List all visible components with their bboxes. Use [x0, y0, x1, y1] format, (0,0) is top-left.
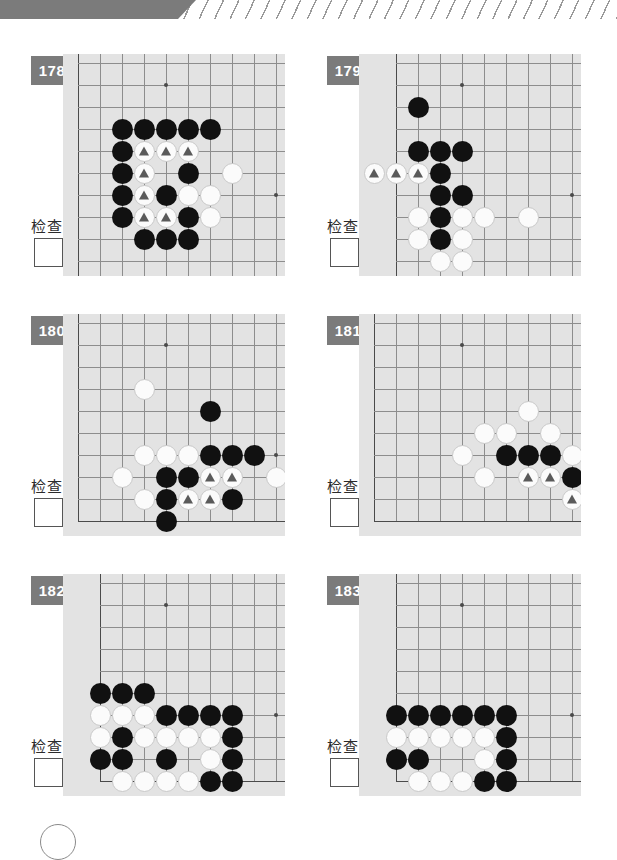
white-stone	[178, 489, 199, 510]
board-star-point	[460, 603, 464, 607]
check-label: 检查	[327, 215, 359, 236]
check-checkbox[interactable]	[330, 498, 359, 527]
black-stone	[430, 229, 451, 250]
white-stone	[408, 207, 429, 228]
board-star-point	[164, 343, 168, 347]
black-stone	[156, 705, 177, 726]
board-line-vertical	[506, 54, 507, 276]
board-line-horizontal	[396, 261, 581, 262]
board-line-horizontal	[78, 107, 285, 108]
black-stone	[112, 683, 133, 704]
white-stone	[200, 467, 221, 488]
board-star-point	[274, 453, 278, 457]
white-stone	[90, 727, 111, 748]
white-stone	[134, 771, 155, 792]
go-board	[359, 54, 581, 276]
white-stone	[386, 163, 407, 184]
page-number-circle	[40, 824, 76, 860]
check-checkbox[interactable]	[330, 758, 359, 787]
white-stone	[452, 229, 473, 250]
black-stone	[430, 163, 451, 184]
board-line-horizontal	[374, 499, 581, 500]
white-stone	[134, 489, 155, 510]
board-line-horizontal	[396, 85, 581, 86]
board-line-horizontal	[78, 367, 285, 368]
board-line-horizontal	[374, 411, 581, 412]
problem-panel: 179检查	[296, 48, 592, 308]
board-line-vertical	[572, 54, 573, 276]
triangle-marker-icon	[139, 191, 149, 200]
board-line-horizontal	[374, 323, 581, 324]
black-stone	[496, 727, 517, 748]
black-stone	[200, 401, 221, 422]
board-line-horizontal	[78, 345, 285, 346]
problem-panel: 180检查	[0, 308, 296, 568]
white-stone	[266, 467, 286, 488]
black-stone	[408, 749, 429, 770]
black-stone	[496, 705, 517, 726]
white-stone	[112, 771, 133, 792]
black-stone	[200, 705, 221, 726]
board-line-vertical	[528, 54, 529, 276]
white-stone	[134, 379, 155, 400]
triangle-marker-icon	[205, 495, 215, 504]
black-stone	[452, 185, 473, 206]
black-stone	[222, 771, 243, 792]
black-stone	[112, 727, 133, 748]
check-checkbox[interactable]	[34, 758, 63, 787]
black-stone	[90, 749, 111, 770]
black-stone	[156, 749, 177, 770]
check-checkbox[interactable]	[330, 238, 359, 267]
white-stone	[496, 423, 517, 444]
triangle-marker-icon	[139, 147, 149, 156]
black-stone	[408, 97, 429, 118]
black-stone	[386, 749, 407, 770]
white-stone	[178, 141, 199, 162]
board-star-point	[460, 343, 464, 347]
check-checkbox[interactable]	[34, 498, 63, 527]
board-star-point	[460, 83, 464, 87]
black-stone	[474, 771, 495, 792]
board-line-horizontal	[396, 649, 581, 650]
white-stone	[452, 727, 473, 748]
black-stone	[112, 163, 133, 184]
white-stone	[112, 467, 133, 488]
white-stone	[518, 467, 539, 488]
problem-panel: 181检查	[296, 308, 592, 568]
problem-panel: 183检查	[296, 568, 592, 828]
board-line-vertical	[484, 54, 485, 276]
board-line-horizontal	[78, 433, 285, 434]
black-stone	[156, 119, 177, 140]
board-line-horizontal	[100, 627, 285, 628]
black-stone	[112, 119, 133, 140]
white-stone	[156, 207, 177, 228]
black-stone	[90, 683, 111, 704]
board-line-vertical	[78, 54, 79, 276]
triangle-marker-icon	[567, 495, 577, 504]
black-stone	[496, 771, 517, 792]
black-stone	[156, 489, 177, 510]
black-stone	[408, 141, 429, 162]
board-line-horizontal	[374, 345, 581, 346]
board-line-horizontal	[78, 85, 285, 86]
white-stone	[156, 727, 177, 748]
white-stone	[134, 141, 155, 162]
white-stone	[452, 207, 473, 228]
board-line-horizontal	[78, 389, 285, 390]
white-stone	[178, 727, 199, 748]
triangle-marker-icon	[183, 495, 193, 504]
black-stone	[112, 749, 133, 770]
board-line-horizontal	[396, 627, 581, 628]
white-stone	[452, 251, 473, 272]
black-stone	[134, 683, 155, 704]
black-stone	[178, 119, 199, 140]
board-line-horizontal	[100, 649, 285, 650]
triangle-marker-icon	[369, 169, 379, 178]
black-stone	[386, 705, 407, 726]
check-label: 检查	[31, 215, 63, 236]
board-line-horizontal	[100, 605, 285, 606]
check-checkbox[interactable]	[34, 238, 63, 267]
black-stone	[200, 445, 221, 466]
white-stone	[430, 727, 451, 748]
board-star-point	[164, 603, 168, 607]
